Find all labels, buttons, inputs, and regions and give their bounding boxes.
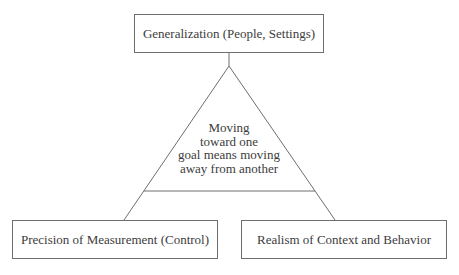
generalization-box: Generalization (People, Settings) [134,14,324,53]
realism-label: Realism of Context and Behavior [257,232,431,248]
realism-box: Realism of Context and Behavior [241,220,447,259]
triangle-caption-line-4: away from another [159,162,299,176]
precision-box: Precision of Measurement (Control) [12,220,218,259]
precision-label: Precision of Measurement (Control) [21,232,209,248]
triangle-caption: Moving toward one goal means moving away… [159,121,299,175]
triangle-caption-line-2: toward one [159,135,299,149]
triangle-caption-line-3: goal means moving [159,148,299,162]
triangle-caption-line-1: Moving [159,121,299,135]
generalization-label: Generalization (People, Settings) [143,26,315,42]
